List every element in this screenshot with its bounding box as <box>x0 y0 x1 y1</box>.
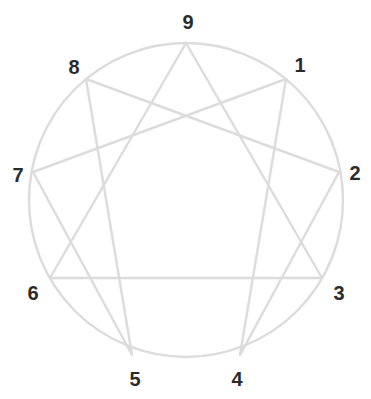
enneagram-circle <box>29 43 343 357</box>
enneagram-point-label-6: 6 <box>27 283 38 303</box>
enneagram-triangle-936 <box>50 43 322 278</box>
enneagram-point-label-4: 4 <box>231 369 242 389</box>
enneagram-point-label-5: 5 <box>129 369 140 389</box>
enneagram-point-label-7: 7 <box>12 165 23 185</box>
enneagram-point-label-8: 8 <box>68 57 79 77</box>
enneagram-point-label-9: 9 <box>182 12 193 32</box>
enneagram-diagram: 123456789 <box>0 0 371 399</box>
enneagram-point-label-3: 3 <box>333 283 344 303</box>
enneagram-point-label-2: 2 <box>349 163 360 183</box>
enneagram-lines <box>29 43 343 357</box>
enneagram-graphic <box>0 0 371 399</box>
enneagram-point-label-1: 1 <box>294 55 305 75</box>
